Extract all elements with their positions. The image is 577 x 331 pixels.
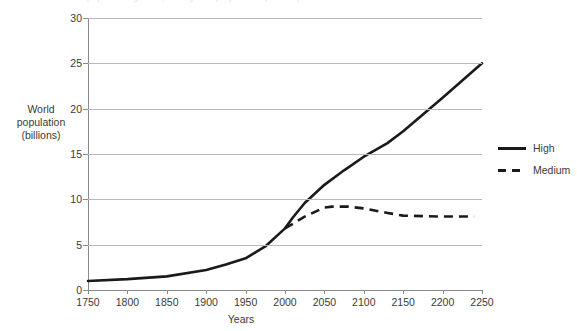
y-axis-tick-label: 25: [70, 57, 82, 69]
legend-label-medium: Medium: [533, 164, 570, 176]
x-axis-tick: [246, 290, 247, 294]
y-axis-tick: [83, 154, 88, 155]
legend-label-high: High: [533, 142, 555, 154]
x-axis-tick: [403, 290, 404, 294]
x-axis-tick-label: 2200: [431, 296, 454, 308]
x-axis-tick: [364, 290, 365, 294]
gridline: [88, 199, 482, 200]
x-axis-tick: [127, 290, 128, 294]
x-axis-tick-label: 2000: [273, 296, 296, 308]
x-axis-tick: [482, 290, 483, 294]
gridline: [88, 109, 482, 110]
legend-item-medium[interactable]: Medium: [498, 159, 574, 181]
x-axis-tick: [285, 290, 286, 294]
y-axis-tick: [83, 199, 88, 200]
y-axis-tick: [83, 63, 88, 64]
x-axis-tick-label: 2100: [352, 296, 375, 308]
y-axis-tick-label: 20: [70, 103, 82, 115]
gridline: [88, 154, 482, 155]
x-axis-tick-label: 1850: [155, 296, 178, 308]
x-axis-tick-label: 1800: [116, 296, 139, 308]
y-axis-tick-labels: 302520151050: [60, 18, 82, 290]
y-axis-tick-label: 5: [76, 239, 82, 251]
gridline: [88, 63, 482, 64]
x-axis-tick-label: 2250: [470, 296, 493, 308]
gridline: [88, 18, 482, 19]
legend-swatch-solid-icon: [498, 143, 526, 153]
x-axis-tick: [167, 290, 168, 294]
y-axis-tick-label: 0: [76, 284, 82, 296]
chart-legend: High Medium: [498, 137, 574, 181]
plot-area: [88, 18, 482, 290]
y-axis-tick-label: 30: [70, 12, 82, 24]
x-axis-tick-label: 1900: [195, 296, 218, 308]
y-axis-tick: [83, 109, 88, 110]
y-axis-tick: [83, 18, 88, 19]
x-axis-tick: [324, 290, 325, 294]
x-axis-tick-label: 1750: [76, 296, 99, 308]
gridline: [88, 245, 482, 246]
chart-title: World population growth, history and pro…: [60, 0, 480, 4]
x-axis-tick-label: 1950: [234, 296, 257, 308]
x-axis-tick-label: 2050: [313, 296, 336, 308]
population-projection-chart: World population growth, history and pro…: [0, 0, 577, 331]
legend-item-high[interactable]: High: [498, 137, 574, 159]
x-axis-tick: [443, 290, 444, 294]
y-axis-tick-label: 15: [70, 148, 82, 160]
x-axis-tick-label: 2150: [392, 296, 415, 308]
x-axis-tick: [88, 290, 89, 294]
y-axis-tick-label: 10: [70, 193, 82, 205]
x-axis-tick: [206, 290, 207, 294]
y-axis-tick: [83, 245, 88, 246]
series-line-high: [88, 63, 482, 281]
x-axis-title: Years: [0, 313, 482, 325]
legend-swatch-dashed-icon: [498, 165, 526, 175]
series-line-medium: [285, 207, 474, 229]
